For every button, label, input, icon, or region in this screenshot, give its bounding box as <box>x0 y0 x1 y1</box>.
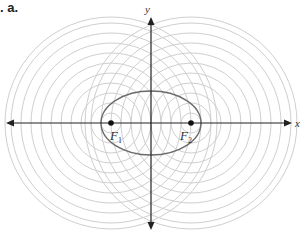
x-axis-left-arrow-icon <box>6 120 14 127</box>
focus-2-label: F2 <box>179 128 192 145</box>
y-axis-down-arrow-icon <box>148 222 155 230</box>
focus-1-subscript: 1 <box>118 136 122 145</box>
focus-1-label: F1 <box>109 128 122 145</box>
y-axis-label: y <box>144 3 150 15</box>
ellipse-diagram: x y F1 F2 <box>0 0 302 235</box>
y-axis-up-arrow-icon <box>148 17 155 25</box>
focus-2-point <box>188 120 194 126</box>
focus-1-point <box>108 120 114 126</box>
focus-2-subscript: 2 <box>188 136 192 145</box>
x-axis <box>6 120 292 127</box>
x-axis-label: x <box>294 117 300 129</box>
